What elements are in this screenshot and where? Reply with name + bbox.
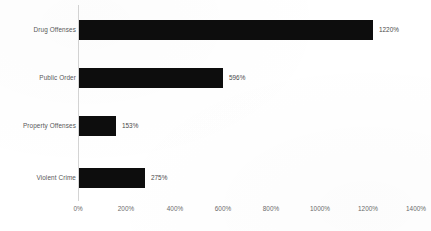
x-tick-label: 200% — [118, 206, 134, 212]
x-tick-label: 600% — [215, 206, 231, 212]
x-tick-label: 800% — [263, 206, 279, 212]
x-tick-label: 1000% — [310, 206, 330, 212]
x-tick-label: 1200% — [358, 206, 378, 212]
bar-chart: Drug Offenses 1220% Public Order 596% Pr… — [0, 0, 431, 231]
bar-value-label: 275% — [151, 175, 167, 181]
category-label: Property Offenses — [0, 123, 76, 129]
bar-row[interactable]: Drug Offenses 1220% — [0, 20, 431, 40]
category-label: Drug Offenses — [0, 27, 76, 33]
category-label: Public Order — [0, 75, 76, 81]
x-tick-label: 0% — [73, 206, 82, 212]
bar-value-label: 1220% — [379, 27, 399, 33]
bar-public-order[interactable] — [79, 68, 223, 88]
x-tick-label: 400% — [167, 206, 183, 212]
category-label: Violent Crime — [0, 175, 76, 181]
bar-violent-crime[interactable] — [79, 168, 145, 188]
bar-property-offenses[interactable] — [79, 116, 116, 136]
x-tick-label: 1400% — [406, 206, 426, 212]
bar-row[interactable]: Violent Crime 275% — [0, 168, 431, 188]
bar-drug-offenses[interactable] — [79, 20, 373, 40]
bar-value-label: 596% — [229, 75, 245, 81]
bar-row[interactable]: Public Order 596% — [0, 68, 431, 88]
bar-value-label: 153% — [122, 123, 138, 129]
bar-row[interactable]: Property Offenses 153% — [0, 116, 431, 136]
